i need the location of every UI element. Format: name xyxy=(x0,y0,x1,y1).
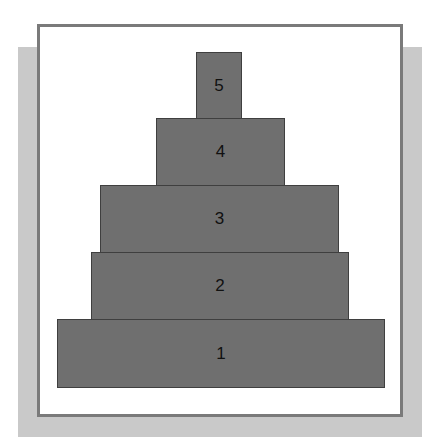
level-label: 3 xyxy=(215,209,224,229)
level-label: 4 xyxy=(216,142,225,162)
pyramid-level-5: 5 xyxy=(196,52,242,119)
pyramid-level-2: 2 xyxy=(91,252,349,320)
level-label: 1 xyxy=(216,344,225,364)
level-label: 5 xyxy=(214,76,223,96)
pyramid-level-1: 1 xyxy=(57,319,385,388)
pyramid-level-4: 4 xyxy=(156,118,285,186)
pyramid-level-3: 3 xyxy=(100,185,339,253)
level-label: 2 xyxy=(215,276,224,296)
